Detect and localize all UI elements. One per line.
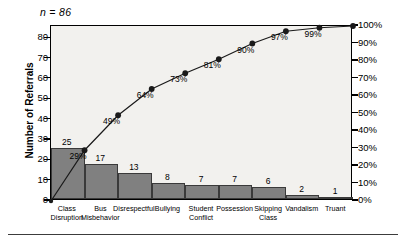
- cumulative-percent-label: 73%: [170, 75, 187, 84]
- y2-tick-label: 80%: [358, 55, 398, 65]
- cumulative-percent-label: 81%: [204, 61, 221, 70]
- y-tick-label: 70: [18, 53, 48, 63]
- cumulative-percent-label: 99%: [304, 30, 321, 39]
- y2-tick-label: 0%: [358, 195, 398, 205]
- bottom-divider: [8, 234, 398, 235]
- bar: [252, 187, 286, 199]
- y-tick-label: 0: [18, 195, 48, 205]
- category-label: Truant: [314, 204, 356, 213]
- y-tick-label: 40: [18, 114, 48, 124]
- y-tick-label: 10: [18, 175, 48, 185]
- bar-value-label: 7: [218, 175, 252, 184]
- bar-value-label: 8: [151, 173, 185, 182]
- y-tick-label: 80: [18, 32, 48, 42]
- y2-tick-label: 100%: [358, 20, 398, 30]
- bar-value-label: 25: [50, 138, 84, 147]
- cumulative-percent-label: 90%: [237, 46, 254, 55]
- pareto-chart: n = 86 Number of Referrals 0102030405060…: [0, 0, 406, 247]
- cumulative-percent-label: 97%: [271, 33, 288, 42]
- y-tick-label: 60: [18, 73, 48, 83]
- y-tick-label: 50: [18, 93, 48, 103]
- bar: [118, 173, 152, 199]
- y-tick-label: 30: [18, 134, 48, 144]
- y2-tick-label: 40%: [358, 125, 398, 135]
- y2-tick-label: 90%: [358, 38, 398, 48]
- y2-tick-label: 20%: [358, 160, 398, 170]
- y2-tick-label: 50%: [358, 108, 398, 118]
- y2-tick-label: 70%: [358, 73, 398, 83]
- bar: [152, 183, 186, 199]
- y-tick-label: 20: [18, 154, 48, 164]
- cumulative-percent-label: 29%: [70, 152, 87, 161]
- bar: [219, 185, 253, 199]
- sample-size-annotation: n = 86: [40, 6, 71, 18]
- bar-value-label: 6: [251, 177, 285, 186]
- bar-value-label: 17: [84, 154, 118, 163]
- cumulative-marker: [49, 199, 53, 203]
- cumulative-percent-label: 49%: [103, 117, 120, 126]
- bar: [185, 185, 219, 199]
- bar: [319, 197, 353, 199]
- bar-value-label: 7: [184, 175, 218, 184]
- cumulative-percent-label: 64%: [137, 91, 154, 100]
- bar: [85, 164, 119, 199]
- bar: [286, 195, 320, 199]
- y2-tick-label: 30%: [358, 143, 398, 153]
- bar-value-label: 13: [117, 163, 151, 172]
- bar-value-label: 1: [318, 187, 352, 196]
- y2-tick-label: 10%: [358, 178, 398, 188]
- bar-value-label: 2: [285, 185, 319, 194]
- y2-tick-label: 60%: [358, 90, 398, 100]
